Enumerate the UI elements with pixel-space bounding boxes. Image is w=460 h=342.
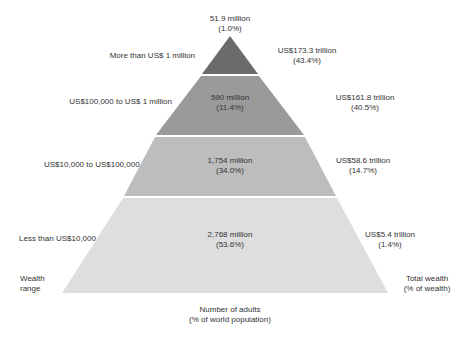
tier4-wealth-value: US$5.4 trillion xyxy=(350,230,430,240)
tier2-wealth: US$161.8 trillion (40.5%) xyxy=(320,93,410,113)
tier1-adults-count: 51.9 million xyxy=(200,14,260,24)
pyramid-tier-1 xyxy=(202,36,258,74)
tier4-adults-pct: (53.6%) xyxy=(195,240,265,250)
tier3-wealth-value: US$58.6 trillion xyxy=(318,156,408,166)
tier1-wealth-value: US$173.3 trillion xyxy=(262,46,352,56)
tier4-adults-count: 2,768 million xyxy=(195,230,265,240)
wealth-range-axis-label: Wealth range xyxy=(20,274,45,294)
tier4-adults: 2,768 million (53.6%) xyxy=(195,230,265,250)
adults-label-line1: Number of adults xyxy=(170,305,290,315)
tier1-adults: 51.9 million (1.0%) xyxy=(200,14,260,34)
total-wealth-label-line2: (% of wealth) xyxy=(394,284,460,294)
total-wealth-axis-label: Total wealth (% of wealth) xyxy=(394,274,460,294)
tier1-wealth-pct: (43.4%) xyxy=(262,56,352,66)
number-of-adults-axis-label: Number of adults (% of world population) xyxy=(170,305,290,325)
wealth-range-label-line1: Wealth xyxy=(20,274,45,284)
tier2-adults-pct: (11.4%) xyxy=(200,103,260,113)
tier3-wealth-pct: (14.7%) xyxy=(318,166,408,176)
tier2-range: US$100,000 to US$ 1 million xyxy=(60,97,172,107)
tier3-adults-count: 1,754 million xyxy=(195,156,265,166)
tier3-wealth: US$58.6 trillion (14.7%) xyxy=(318,156,408,176)
tier4-wealth: US$5.4 trillion (1.4%) xyxy=(350,230,430,250)
tier3-range: US$10,000 to US$100,000 xyxy=(44,160,140,170)
tier2-wealth-pct: (40.5%) xyxy=(320,103,410,113)
tier2-wealth-value: US$161.8 trillion xyxy=(320,93,410,103)
tier2-adults: 590 million (11.4%) xyxy=(200,93,260,113)
tier1-range: More than US$ 1 million xyxy=(95,51,195,61)
tier1-wealth: US$173.3 trillion (43.4%) xyxy=(262,46,352,66)
total-wealth-label-line1: Total wealth xyxy=(394,274,460,284)
wealth-range-label-line2: range xyxy=(20,284,45,294)
tier1-adults-pct: (1.0%) xyxy=(200,24,260,34)
tier4-wealth-pct: (1.4%) xyxy=(350,240,430,250)
tier4-range: Less than US$10,000 xyxy=(19,234,96,244)
adults-label-line2: (% of world population) xyxy=(170,315,290,325)
tier2-adults-count: 590 million xyxy=(200,93,260,103)
tier3-adults: 1,754 million (34.0%) xyxy=(195,156,265,176)
tier3-adults-pct: (34.0%) xyxy=(195,166,265,176)
